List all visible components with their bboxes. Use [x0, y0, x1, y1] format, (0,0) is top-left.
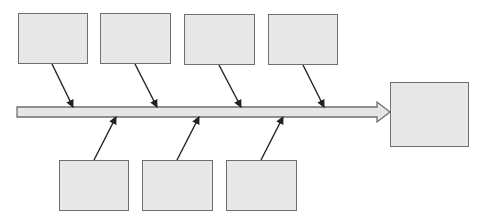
top-cause-box-3	[184, 14, 255, 65]
effect-box	[390, 82, 469, 147]
top-cause-box-4	[268, 14, 338, 65]
spine-arrow	[17, 102, 390, 122]
bottom-cause-arrow-3	[261, 117, 283, 160]
bottom-cause-box-3	[226, 160, 297, 211]
bottom-cause-arrow-2	[177, 117, 199, 160]
bottom-cause-arrow-1	[94, 117, 116, 160]
bottom-cause-box-1	[59, 160, 129, 211]
top-cause-box-2	[100, 13, 171, 64]
top-cause-arrow-2	[135, 64, 157, 107]
top-cause-arrow-1	[52, 64, 73, 107]
top-cause-box-1	[18, 13, 88, 64]
top-cause-arrow-3	[219, 65, 241, 107]
top-cause-arrow-4	[303, 65, 324, 107]
bottom-cause-box-2	[142, 160, 213, 211]
fishbone-diagram	[0, 0, 481, 222]
